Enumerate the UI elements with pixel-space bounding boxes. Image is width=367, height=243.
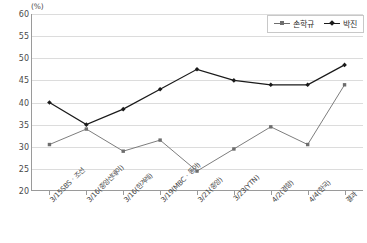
- legend-item-손학규[interactable]: 손학규: [274, 18, 313, 29]
- gridline: [32, 125, 363, 126]
- legend-item-박진[interactable]: 박진: [324, 18, 357, 29]
- y-tick-label: 30: [3, 142, 29, 151]
- legend-marker-icon: [274, 20, 290, 28]
- legend: 손학규박진: [267, 15, 364, 33]
- legend-label: 박진: [343, 18, 357, 29]
- y-tick-label: 40: [3, 98, 29, 107]
- y-tick-label: 20: [3, 187, 29, 196]
- y-tick-label: 35: [3, 120, 29, 129]
- legend-marker-icon: [324, 20, 340, 28]
- gridline: [32, 147, 363, 148]
- gridline: [32, 58, 363, 59]
- y-tick-label: 45: [3, 76, 29, 85]
- legend-label: 손학규: [293, 18, 313, 29]
- gridline: [32, 80, 363, 81]
- y-tick-label: 50: [3, 54, 29, 63]
- y-tick-label: 25: [3, 164, 29, 173]
- line-chart: (%) 202530354045505560 3/15SBS · 조선3/16(…: [0, 0, 367, 243]
- gridline: [32, 103, 363, 104]
